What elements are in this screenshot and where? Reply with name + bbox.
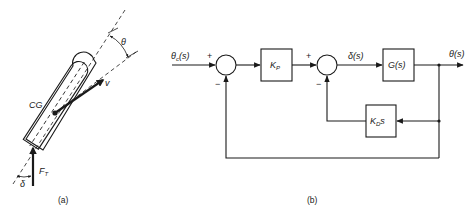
panel-a-rocket-diagram: θ CG v FT δ (a) xyxy=(13,10,138,205)
sj1-plus-sign: + xyxy=(207,51,212,61)
summing-junction-1 xyxy=(216,55,236,75)
kp-block-label: KP xyxy=(270,60,280,71)
sj1-minus-sign: − xyxy=(215,79,220,89)
body-axis-line xyxy=(13,10,125,184)
sj2-plus-sign: + xyxy=(306,51,311,61)
panel-b-block-diagram: θc(s) + − KP + − δ(s) G(s) θ(s) xyxy=(171,49,464,205)
summing-junction-2 xyxy=(317,55,337,75)
panel-b-caption: (b) xyxy=(307,195,318,205)
output-signal-label: θ(s) xyxy=(449,49,464,59)
plant-block-label: G(s) xyxy=(388,60,406,70)
delta-angle-arc xyxy=(17,176,31,177)
panel-a-caption: (a) xyxy=(58,195,69,205)
theta-label: θ xyxy=(121,37,126,47)
input-signal-label: θc(s) xyxy=(171,51,189,62)
cg-label: CG xyxy=(29,100,43,110)
delta-signal-label: δ(s) xyxy=(348,51,364,61)
rocket-control-figure: θ CG v FT δ (a) θc(s) + − KP xyxy=(0,0,475,220)
velocity-label: v xyxy=(105,78,110,88)
velocity-vector-arrow xyxy=(55,80,103,113)
thrust-label: FT xyxy=(39,166,50,177)
kd-to-sj2-feedback xyxy=(327,76,366,121)
delta-label: δ xyxy=(20,179,26,189)
kd-block-label: KDs xyxy=(370,116,385,127)
sj2-minus-sign: − xyxy=(316,79,321,89)
outer-feedback-path xyxy=(226,76,439,158)
